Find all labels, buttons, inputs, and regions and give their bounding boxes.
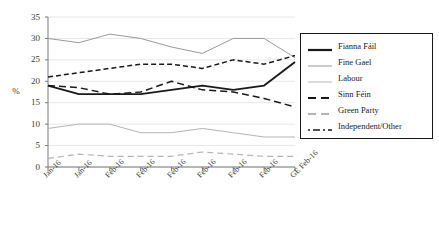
- legend-item[interactable]: Labour: [301, 70, 432, 86]
- series-line: [48, 124, 295, 137]
- legend-swatch-icon: [307, 105, 333, 115]
- legend-swatch-icon: [307, 57, 333, 67]
- legend-item[interactable]: Independent/Other: [301, 118, 432, 134]
- legend-label: Fianna Fáil: [338, 41, 376, 51]
- legend-label: Green Party: [338, 105, 379, 115]
- y-tick-label: 25: [18, 55, 40, 64]
- y-tick-label: 20: [18, 77, 40, 86]
- y-tick-label: 35: [18, 13, 40, 22]
- legend-swatch-icon: [307, 73, 333, 83]
- legend-swatch-icon: [307, 121, 333, 131]
- legend-item[interactable]: Fine Gael: [301, 54, 432, 70]
- y-tick-label: 5: [18, 141, 40, 150]
- poll-trend-chart: % 05101520253035 Jan-16Jan-16Feb-16Feb-1…: [0, 0, 439, 225]
- legend-item[interactable]: Green Party: [301, 102, 432, 118]
- series-line: [48, 152, 295, 158]
- legend-item[interactable]: Sinn Féin: [301, 86, 432, 102]
- legend-label: Labour: [338, 73, 363, 83]
- legend-label: Sinn Féin: [338, 89, 371, 99]
- legend-label: Fine Gael: [338, 57, 371, 67]
- data-series-group: [48, 34, 295, 158]
- series-line: [48, 56, 295, 77]
- chart-legend: Fianna FáilFine GaelLabourSinn FéinGreen…: [300, 33, 433, 139]
- legend-swatch-icon: [307, 89, 333, 99]
- y-tick-label: 15: [18, 98, 40, 107]
- legend-item[interactable]: Fianna Fáil: [301, 38, 432, 54]
- legend-swatch-icon: [307, 41, 333, 51]
- gridlines: [48, 17, 295, 167]
- series-line: [48, 34, 295, 58]
- y-tick-label: 0: [18, 163, 40, 172]
- y-tick-label: 30: [18, 34, 40, 43]
- y-tick-label: 10: [18, 120, 40, 129]
- legend-label: Independent/Other: [338, 121, 402, 131]
